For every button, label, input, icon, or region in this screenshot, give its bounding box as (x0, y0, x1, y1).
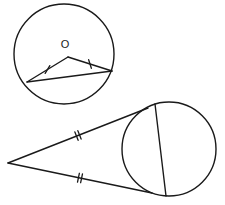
tick-mark (78, 173, 80, 182)
bottom-chord-segment (155, 104, 166, 196)
top-circle-outline (14, 4, 114, 104)
lower-tangent-segment (8, 163, 152, 193)
geometry-diagram: O (0, 0, 225, 205)
geometry-figure-canvas: O (0, 0, 225, 205)
bottom-figure-group (8, 102, 216, 196)
tick-mark (45, 66, 50, 74)
top-chord-segment (27, 71, 112, 82)
top-figure-group: O (14, 4, 114, 104)
tick-mark (81, 174, 83, 183)
circle-center-label-o: O (61, 38, 70, 50)
upper-tangent-segment (8, 108, 148, 163)
top-tick-left (45, 66, 50, 74)
bottom-circle-outline (122, 102, 216, 196)
